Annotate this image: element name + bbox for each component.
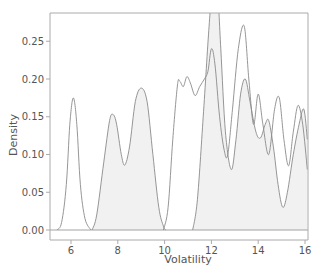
x-axis-label: Volatility bbox=[164, 253, 212, 266]
y-tick-label: 0.15 bbox=[22, 111, 44, 122]
x-tick-label: 6 bbox=[68, 245, 74, 256]
y-tick-label: 0.00 bbox=[22, 225, 44, 236]
x-tick-label: 8 bbox=[115, 245, 121, 256]
density-fills bbox=[92, 0, 307, 230]
density-2-area bbox=[92, 88, 166, 230]
y-axis: 0.000.050.100.150.200.25 bbox=[22, 36, 50, 236]
y-axis-label: Density bbox=[7, 114, 20, 156]
y-tick-label: 0.25 bbox=[22, 36, 44, 47]
density-1-line bbox=[57, 98, 91, 230]
y-tick-label: 0.05 bbox=[22, 187, 44, 198]
density-chart: 6810121416 0.000.050.100.150.200.25 Vola… bbox=[0, 0, 322, 279]
y-tick-label: 0.20 bbox=[22, 74, 44, 85]
density-4-area bbox=[193, 0, 308, 230]
x-tick-label: 14 bbox=[252, 245, 265, 256]
x-tick-label: 16 bbox=[299, 245, 312, 256]
y-tick-label: 0.10 bbox=[22, 149, 44, 160]
